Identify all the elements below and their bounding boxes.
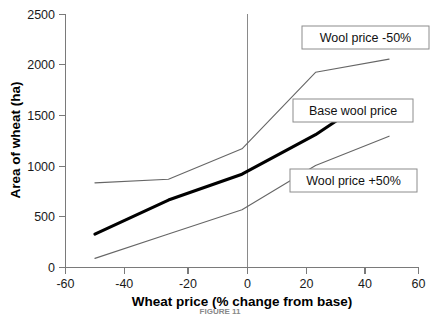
figure-container: 2500 2000 1500 1000 500 0 -60 -40 -20 0 … — [0, 0, 440, 316]
y-tick-label: 2500 — [27, 8, 55, 22]
annotation-wool-price-minus-50: Wool price -50% — [302, 26, 429, 49]
y-tick-label: 1000 — [27, 160, 55, 174]
y-tick-label: 0 — [48, 261, 55, 275]
x-ticks-group: -60 -40 -20 0 20 40 60 — [56, 268, 425, 292]
line-chart: 2500 2000 1500 1000 500 0 -60 -40 -20 0 … — [0, 0, 440, 316]
x-tick-label: 40 — [358, 277, 372, 291]
x-tick-label: -60 — [56, 277, 74, 291]
x-tick-label: 0 — [244, 277, 251, 291]
annotation-label: Wool price -50% — [320, 31, 411, 45]
x-tick-label: 20 — [300, 277, 314, 291]
series-group — [95, 59, 389, 258]
y-ticks-group: 2500 2000 1500 1000 500 0 — [27, 8, 65, 275]
x-axis-title: Wheat price (% change from base) — [132, 294, 353, 309]
axes-group — [66, 14, 420, 268]
y-axis-title: Area of wheat (ha) — [8, 81, 23, 198]
x-tick-label: 60 — [412, 277, 426, 291]
figure-caption: FIGURE 11 — [200, 307, 241, 316]
annotation-label: Wool price +50% — [306, 174, 401, 188]
y-tick-label: 500 — [34, 210, 55, 224]
y-tick-label: 1500 — [27, 109, 55, 123]
annotation-label: Base wool price — [309, 104, 397, 118]
x-tick-label: -20 — [179, 277, 197, 291]
x-tick-label: -40 — [115, 277, 133, 291]
y-tick-label: 2000 — [27, 58, 55, 72]
annotation-base-wool-price: Base wool price — [293, 99, 413, 122]
series-line-wool-price-plus-50 — [95, 136, 389, 258]
annotation-wool-price-plus-50: Wool price +50% — [290, 169, 417, 192]
